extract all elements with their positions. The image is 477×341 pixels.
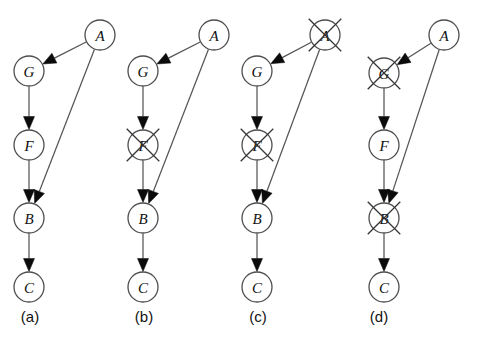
node-label-A: A <box>94 28 105 44</box>
arrowhead-G-to-F <box>252 117 263 130</box>
node-F[interactable]: F <box>14 130 44 160</box>
edge-A-to-B <box>267 50 320 192</box>
node-C[interactable]: C <box>128 272 158 302</box>
arrowhead-A-to-G <box>271 53 285 64</box>
node-label-G: G <box>24 64 35 80</box>
arrowhead-A-to-B <box>148 189 158 203</box>
panel-a-caption: (a) <box>21 308 39 325</box>
node-A[interactable]: A <box>429 20 459 50</box>
arrowhead-A-to-G <box>397 53 411 65</box>
node-label-F: F <box>23 138 34 154</box>
panel-b-caption: (b) <box>135 308 153 325</box>
arrowhead-B-to-C <box>379 259 390 272</box>
edge-A-to-G <box>408 43 431 57</box>
node-C[interactable]: C <box>369 272 399 302</box>
node-label-A: A <box>208 28 219 44</box>
node-G[interactable]: G <box>128 56 158 86</box>
node-label-G: G <box>138 64 149 80</box>
edge-A-to-G <box>168 42 200 58</box>
arrowhead-G-to-F <box>379 117 390 130</box>
node-label-F: F <box>378 138 389 154</box>
node-G[interactable]: G <box>14 56 44 86</box>
node-G[interactable]: G <box>242 56 272 86</box>
node-B[interactable]: B <box>368 202 401 235</box>
node-A[interactable]: A <box>309 19 342 52</box>
panel-c-caption: (c) <box>249 308 267 325</box>
arrowhead-F-to-B <box>252 190 263 203</box>
arrowhead-A-to-B <box>262 189 272 203</box>
node-F[interactable]: F <box>369 130 399 160</box>
edge-A-to-B <box>153 49 208 191</box>
panel-a: AGFBC(a) <box>14 20 115 325</box>
edge-A-to-B <box>39 49 94 191</box>
arrowhead-G-to-F <box>138 117 149 130</box>
node-F[interactable]: F <box>241 129 274 162</box>
arrowhead-A-to-G <box>157 53 171 64</box>
node-B[interactable]: B <box>242 203 272 233</box>
node-B[interactable]: B <box>14 203 44 233</box>
node-A[interactable]: A <box>85 20 115 50</box>
edge-A-to-G <box>54 42 86 58</box>
node-F[interactable]: F <box>127 129 160 162</box>
node-label-G: G <box>252 64 263 80</box>
panel-b: AGFBC(b) <box>127 20 229 325</box>
node-label-A: A <box>438 28 449 44</box>
causal-graph-diagram: AGFBC(a)AGFBC(b)AGFBC(c)AGFBC(d) <box>0 0 477 341</box>
arrowhead-F-to-B <box>379 190 390 203</box>
node-label-C: C <box>138 280 149 296</box>
edge-A-to-G <box>282 42 311 57</box>
panel-d-caption: (d) <box>370 308 388 325</box>
node-A[interactable]: A <box>199 20 229 50</box>
arrowhead-A-to-B <box>34 189 44 203</box>
figure-canvas: AGFBC(a)AGFBC(b)AGFBC(c)AGFBC(d) <box>0 0 477 341</box>
arrowhead-G-to-F <box>24 117 35 130</box>
panel-c: AGFBC(c) <box>241 19 342 325</box>
edge-A-to-B <box>393 50 439 191</box>
node-label-C: C <box>379 280 390 296</box>
arrowhead-F-to-B <box>138 190 149 203</box>
arrowhead-B-to-C <box>138 259 149 272</box>
node-label-C: C <box>24 280 35 296</box>
node-G[interactable]: G <box>368 57 401 90</box>
arrowhead-F-to-B <box>24 190 35 203</box>
arrowhead-A-to-B <box>388 189 398 203</box>
arrowhead-A-to-G <box>43 53 57 64</box>
node-C[interactable]: C <box>14 272 44 302</box>
node-C[interactable]: C <box>242 272 272 302</box>
arrowhead-B-to-C <box>24 259 35 272</box>
node-label-B: B <box>252 211 261 227</box>
panel-d: AGFBC(d) <box>368 20 459 325</box>
node-label-B: B <box>138 211 147 227</box>
node-label-B: B <box>24 211 33 227</box>
node-B[interactable]: B <box>128 203 158 233</box>
arrowhead-B-to-C <box>252 259 263 272</box>
node-label-C: C <box>252 280 263 296</box>
